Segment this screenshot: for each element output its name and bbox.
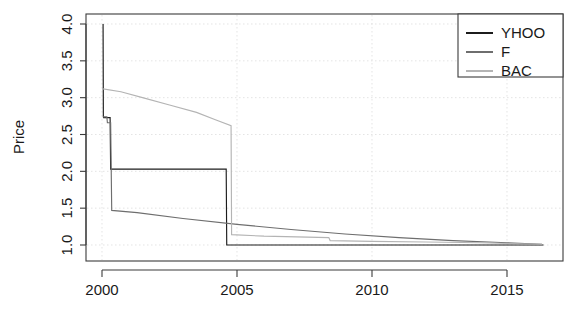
x-axis-tick-label: 2010 (355, 281, 388, 298)
y-axis-tick-label: 2.0 (58, 161, 75, 182)
y-axis-tick-label: 4.0 (58, 14, 75, 35)
y-axis-title: Price (10, 120, 27, 154)
y-axis-tick-label: 2.5 (58, 124, 75, 145)
y-axis-tick-label: 1.5 (58, 198, 75, 219)
y-axis-tick-label: 3.5 (58, 50, 75, 71)
x-axis-tick-label: 2015 (490, 281, 523, 298)
x-axis-tick-label: 2000 (85, 281, 118, 298)
y-axis: 1.01.52.02.53.03.54.0 (58, 14, 86, 256)
legend-label-yhoo: YHOO (501, 24, 545, 41)
x-axis: 2000200520102015 (85, 270, 523, 298)
y-axis-title-text: Price (10, 120, 27, 154)
legend-label-f: F (501, 43, 510, 60)
legend-label-bac: BAC (501, 62, 532, 79)
x-axis-tick-label: 2005 (220, 281, 253, 298)
legend: YHOOFBAC (458, 14, 563, 79)
chart-root: 1.01.52.02.53.03.54.0 2000200520102015 P… (0, 0, 577, 312)
series-line-f (103, 117, 542, 244)
y-axis-tick-label: 1.0 (58, 235, 75, 256)
series-line-bac (103, 89, 542, 244)
price-line-chart: 1.01.52.02.53.03.54.0 2000200520102015 P… (0, 0, 577, 312)
y-axis-tick-label: 3.0 (58, 87, 75, 108)
